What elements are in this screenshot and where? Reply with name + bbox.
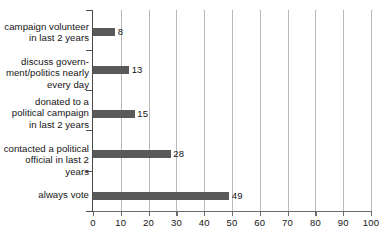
gridline-60 [260,10,261,211]
gridline-50 [232,10,233,211]
x-axis-tick [371,211,372,216]
gridline-40 [204,10,205,211]
x-tick-label-20: 20 [143,217,154,228]
bar-chart: campaign volunteer in last 2 years discu… [0,0,391,236]
bar-value-contacted-official: 28 [173,149,184,159]
gridline-80 [315,10,316,211]
bar-value-campaign-volunteer: 8 [118,27,123,37]
x-axis-tick [343,211,344,216]
x-tick-label-0: 0 [90,217,95,228]
x-axis-tick [149,211,150,216]
category-label-donated-campaign: donated to a political campaign in last … [12,96,89,130]
x-axis-tick [260,211,261,216]
gridline-20 [149,10,150,211]
bar-contacted-official[interactable] [93,150,171,158]
plot-area [93,10,371,211]
bar-discuss-government[interactable] [93,66,129,74]
gridline-70 [288,10,289,211]
x-tick-label-40: 40 [199,217,210,228]
y-axis-tick [86,211,93,212]
x-tick-label-70: 70 [282,217,293,228]
x-tick-label-30: 30 [171,217,182,228]
x-axis-tick [176,211,177,216]
y-axis-tick [86,10,93,11]
bar-campaign-volunteer[interactable] [93,28,115,36]
x-tick-label-100: 100 [363,217,379,228]
x-axis-tick [121,211,122,216]
x-tick-label-50: 50 [227,217,238,228]
category-label-discuss-government: discuss govern- ment/politics nearly eve… [6,56,89,90]
x-axis-tick [232,211,233,216]
category-label-campaign-volunteer: campaign volunteer in last 2 years [4,21,89,44]
category-label-contacted-official: contacted a political official in last 2… [0,143,89,177]
x-axis-tick [288,211,289,216]
x-tick-label-90: 90 [338,217,349,228]
category-label-always-vote: always vote [38,189,89,200]
x-tick-label-60: 60 [254,217,265,228]
x-tick-label-10: 10 [115,217,126,228]
gridline-30 [176,10,177,211]
x-axis-tick [204,211,205,216]
gridline-100 [371,10,372,211]
bar-value-discuss-government: 13 [132,65,143,75]
bar-value-donated-campaign: 15 [137,109,148,119]
y-axis-tick [86,50,93,51]
x-axis-tick [315,211,316,216]
gridline-90 [343,10,344,211]
x-tick-label-80: 80 [310,217,321,228]
bar-always-vote[interactable] [93,192,229,200]
bar-value-always-vote: 49 [232,191,243,201]
x-axis-tick [93,211,94,216]
bar-donated-campaign[interactable] [93,110,135,118]
